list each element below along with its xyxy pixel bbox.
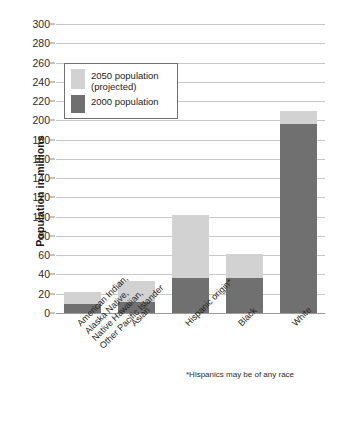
y-tick-label-80: 80 [38,230,50,242]
chart-legend: 2050 population (projected) 2000 populat… [64,63,178,119]
y-tick-mark-280 [50,43,55,44]
population-bar-chart: Population in millions 02040608010012014… [0,0,345,433]
y-tick-mark-260 [50,62,55,63]
y-tick-label-220: 220 [32,95,50,107]
legend-item-current: 2000 population [71,95,171,113]
y-tick-label-160: 160 [32,153,50,165]
y-tick-mark-160 [50,158,55,159]
y-tick-label-20: 20 [38,288,50,300]
y-tick-label-260: 260 [32,57,50,69]
y-tick-label-140: 140 [32,172,50,184]
y-tick-mark-140 [50,178,55,179]
y-tick-mark-20 [50,293,55,294]
y-tick-label-0: 0 [44,307,50,319]
y-tick-mark-120 [50,197,55,198]
y-tick-label-200: 200 [32,114,50,126]
y-tick-label-280: 280 [32,37,50,49]
legend-item-projected: 2050 population (projected) [71,69,171,92]
y-tick-mark-80 [50,235,55,236]
y-tick-label-180: 180 [32,134,50,146]
legend-swatch-projected-icon [71,69,85,89]
y-tick-label-40: 40 [38,268,50,280]
legend-swatch-current-icon [71,95,85,113]
y-tick-label-60: 60 [38,249,50,261]
y-tick-mark-0 [50,313,55,314]
legend-label-projected: 2050 population (projected) [91,69,159,92]
y-tick-mark-60 [50,255,55,256]
legend-label-projected-line-2: (projected) [91,81,159,92]
legend-label-current: 2000 population [91,95,159,107]
y-tick-mark-240 [50,81,55,82]
y-tick-label-100: 100 [32,211,50,223]
y-tick-mark-200 [50,120,55,121]
y-tick-mark-100 [50,216,55,217]
y-tick-label-300: 300 [32,18,50,30]
bar-segment-current [280,124,317,313]
bar-group [172,215,209,313]
y-tick-label-240: 240 [32,76,50,88]
bar-group [280,111,317,313]
y-tick-mark-180 [50,139,55,140]
footnote: *Hispanics may be of any race [186,370,294,379]
y-tick-mark-220 [50,101,55,102]
legend-label-projected-line-1: 2050 population [91,70,159,81]
y-tick-mark-300 [50,24,55,25]
y-tick-mark-40 [50,274,55,275]
y-tick-label-120: 120 [32,191,50,203]
legend-label-current-line-1: 2000 population [91,96,159,107]
